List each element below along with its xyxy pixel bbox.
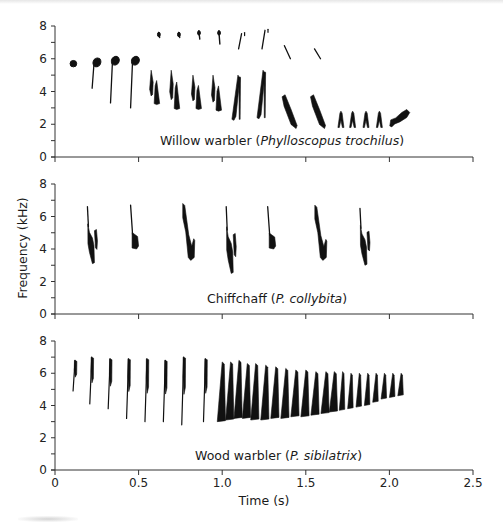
y-tick-label: 6 [39, 52, 47, 66]
syllable-stroke [131, 205, 133, 234]
syllable [311, 372, 319, 416]
panel-2-caption: Chiffchaff (P. collybita) [207, 291, 347, 306]
syllable [367, 231, 370, 251]
syllable [360, 225, 367, 265]
x-tick-label: 2.5 [463, 476, 482, 490]
syllable [269, 233, 276, 249]
y-tick-label: 0 [39, 150, 47, 164]
y-tick-label: 6 [39, 366, 47, 380]
syllable [198, 31, 201, 35]
y-axis-label: Frequency (kHz) [15, 197, 30, 299]
syllable [109, 359, 112, 386]
syllable [94, 230, 97, 250]
syllable [264, 72, 266, 117]
syllable [191, 75, 195, 101]
syllable [183, 357, 186, 394]
y-tick-label: 2 [39, 117, 47, 131]
syllable [88, 224, 95, 264]
x-tick-label: 0 [51, 476, 59, 490]
syllable [205, 359, 208, 394]
syllable-stroke [131, 60, 133, 108]
syllable [216, 86, 222, 111]
syllable [390, 110, 410, 127]
spectrogram-marks [70, 29, 410, 425]
syllable-stroke [262, 30, 265, 49]
y-tick-label: 2 [39, 431, 47, 445]
syllable [321, 372, 329, 414]
syllable [212, 75, 216, 102]
syllable [165, 360, 168, 394]
y-tick-label: 4 [39, 399, 47, 413]
y-tick-label: 2 [39, 275, 47, 289]
syllable [350, 111, 356, 127]
y-tick-label: 0 [39, 463, 47, 477]
syllable [234, 360, 242, 418]
x-tick-label: 1.0 [213, 476, 232, 490]
syllable [339, 372, 345, 411]
syllable [239, 77, 241, 119]
syllable [271, 367, 279, 419]
y-tick-label: 8 [39, 334, 47, 348]
syllable [178, 32, 181, 36]
syllable [128, 359, 131, 392]
syllable [170, 70, 174, 99]
y-tick-label: 6 [39, 210, 47, 224]
syllable [110, 55, 121, 67]
syllable [91, 357, 94, 383]
syllable [376, 111, 382, 127]
syllable [251, 364, 259, 420]
syllable [157, 32, 160, 36]
syllable [364, 373, 370, 405]
syllable [381, 373, 387, 399]
syllable [91, 57, 102, 69]
y-tick-label: 4 [39, 85, 47, 99]
syllable-stroke [239, 34, 242, 49]
syllable [282, 95, 297, 129]
panel-1-caption: Willow warbler (Phylloscopus trochilus) [160, 133, 404, 148]
y-tick-label: 4 [39, 242, 47, 256]
syllable [301, 370, 309, 417]
syllable [70, 60, 77, 66]
panel-2-syllables [87, 204, 370, 274]
panel-1-syllables [70, 29, 410, 128]
syllable [315, 205, 327, 260]
syllable [217, 362, 225, 422]
panel-3-caption: Wood warbler (P. sibilatrix) [195, 448, 362, 463]
syllable [281, 368, 289, 418]
syllable [242, 364, 250, 419]
syllable-stroke [315, 49, 321, 59]
syllable-stroke [284, 46, 290, 59]
syllable [348, 373, 354, 408]
panel-3-syllables [73, 357, 403, 425]
syllable [150, 70, 154, 96]
syllable [132, 233, 139, 249]
x-tick-label: 1.5 [296, 476, 315, 490]
syllable [130, 55, 141, 67]
syllable [183, 204, 195, 261]
syllable [74, 360, 77, 377]
y-tick-label: 8 [39, 177, 47, 191]
syllable-stroke [111, 60, 113, 103]
y-tick-label: 8 [39, 19, 47, 33]
syllable [146, 359, 149, 394]
syllable [338, 111, 344, 127]
syllable [329, 372, 337, 412]
syllable [389, 373, 395, 397]
x-tick-label: 2.0 [380, 476, 399, 490]
syllable [226, 362, 234, 420]
x-axis-label: Time (s) [238, 493, 290, 508]
syllable [196, 85, 202, 109]
y-tick-label: 0 [39, 307, 47, 321]
syllable [227, 227, 234, 274]
spectrogram-figure: Frequency (kHz) Time (s) Willow warbler … [0, 0, 503, 527]
syllable [373, 373, 379, 402]
syllable [233, 233, 236, 256]
syllable [311, 95, 326, 129]
syllable-stroke [268, 207, 270, 235]
syllable [261, 365, 269, 420]
syllable [291, 370, 299, 417]
syllable [218, 31, 221, 35]
syllable [154, 81, 160, 105]
syllable [356, 373, 362, 407]
syllable [398, 373, 404, 396]
